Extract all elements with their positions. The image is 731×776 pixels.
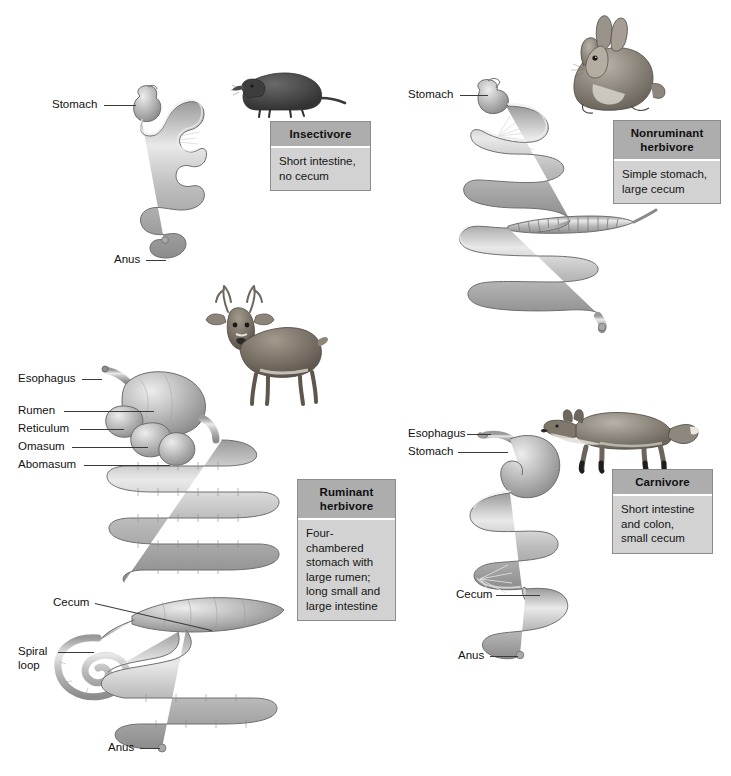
leader-omasum-ruminant [72, 447, 148, 448]
label-spiral-loop-line-1: Spiral [18, 645, 47, 659]
callout-nonruminant-body-line-2: large cecum [622, 182, 713, 197]
label-anus-carnivore: Anus [458, 649, 484, 663]
panel-nonruminant-herbivore: Stomach Cecum Anus Nonruminant herbivore… [390, 0, 731, 350]
callout-ruminant: Ruminant herbivore Four-chambered stomac… [297, 479, 396, 621]
label-esophagus-carnivore: Esophagus [408, 427, 466, 441]
cecum-shape [508, 210, 656, 233]
label-spiral-loop-line-2: loop [18, 659, 47, 673]
callout-carnivore-header: Carnivore [613, 470, 712, 496]
callout-nonruminant-header-line-2: herbivore [618, 140, 716, 154]
callout-nonruminant-body: Simple stomach, large cecum [614, 161, 720, 203]
leader-anus-insectivore [146, 260, 166, 261]
callout-nonruminant-header-line-1: Nonruminant [618, 126, 716, 140]
label-omasum-ruminant: Omasum [18, 440, 65, 454]
callout-nonruminant-header: Nonruminant herbivore [614, 121, 720, 161]
insectivore-digestive-tract [120, 82, 250, 277]
panel-carnivore: Esophagus Stomach Cecum Anus Carnivore S… [400, 385, 731, 705]
callout-ruminant-body-line-1: Four-chambered [306, 526, 388, 555]
callout-ruminant-header: Ruminant herbivore [298, 480, 395, 520]
callout-carnivore-body-line-3: small cecum [621, 531, 705, 546]
callout-ruminant-header-line-2: herbivore [302, 499, 391, 513]
leader-anus-ruminant [140, 748, 160, 749]
callout-nonruminant-body-line-1: Simple stomach, [622, 167, 713, 182]
panel-ruminant-herbivore: Esophagus Rumen Reticulum Omasum Abomasu… [0, 270, 420, 776]
label-stomach-carnivore: Stomach [408, 445, 453, 459]
callout-insectivore-body-line-1: Short intestine, [279, 154, 363, 169]
label-stomach-nonruminant: Stomach [408, 88, 453, 102]
callout-ruminant-body-line-5: large intestine [306, 599, 388, 614]
callout-nonruminant: Nonruminant herbivore Simple stomach, la… [613, 120, 721, 204]
callout-insectivore-body-line-2: no cecum [279, 169, 363, 184]
leader-abomasum-ruminant [84, 465, 170, 466]
ruminant-small-intestine [98, 438, 298, 588]
callout-carnivore-body-line-1: Short intestine [621, 502, 705, 517]
leader-rumen-ruminant [64, 411, 154, 412]
leader-stomach-nonruminant [460, 95, 488, 96]
leader-spiral-loop-ruminant [58, 652, 94, 653]
callout-ruminant-body-line-4: long small and [306, 584, 388, 599]
label-anus-ruminant: Anus [108, 741, 134, 755]
leader-anus-carnivore [490, 656, 518, 657]
leader-esophagus-carnivore [467, 434, 491, 435]
callout-carnivore-body: Short intestine and colon, small cecum [613, 496, 712, 553]
label-rumen-ruminant: Rumen [18, 404, 55, 418]
label-reticulum-ruminant: Reticulum [18, 422, 69, 436]
label-anus-insectivore: Anus [114, 253, 140, 267]
callout-ruminant-body-line-3: large rumen; [306, 570, 388, 585]
label-stomach-insectivore: Stomach [52, 98, 97, 112]
panel-insectivore: Stomach Anus Insectivore Short intestine… [0, 0, 390, 300]
callout-carnivore-body-line-2: and colon, [621, 517, 705, 532]
callout-insectivore: Insectivore Short intestine, no cecum [270, 121, 371, 191]
label-abomasum-ruminant: Abomasum [18, 458, 76, 472]
label-cecum-carnivore: Cecum [456, 588, 492, 602]
callout-ruminant-body: Four-chambered stomach with large rumen;… [298, 520, 395, 620]
label-cecum-ruminant: Cecum [53, 596, 89, 610]
callout-insectivore-header: Insectivore [271, 122, 370, 148]
callout-carnivore: Carnivore Short intestine and colon, sma… [612, 469, 713, 554]
leader-stomach-carnivore [458, 452, 508, 453]
label-spiral-loop-ruminant: Spiral loop [18, 645, 47, 672]
leader-reticulum-ruminant [80, 429, 124, 430]
label-esophagus-ruminant: Esophagus [18, 372, 76, 386]
leader-stomach-insectivore [104, 105, 136, 106]
callout-ruminant-header-line-1: Ruminant [302, 485, 391, 499]
leader-esophagus-ruminant [82, 379, 102, 380]
callout-ruminant-body-line-2: stomach with [306, 555, 388, 570]
callout-insectivore-body: Short intestine, no cecum [271, 148, 370, 190]
leader-cecum-carnivore [496, 595, 540, 596]
